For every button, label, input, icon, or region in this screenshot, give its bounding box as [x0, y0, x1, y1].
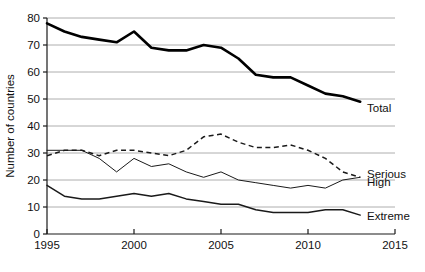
y-tick-label: 60: [27, 66, 40, 78]
series-label-extreme: Extreme: [367, 210, 410, 222]
y-tick-label: 10: [27, 201, 40, 213]
line-chart: 01020304050607080 19952000200520102015 T…: [0, 0, 425, 272]
x-tick-label: 2015: [382, 239, 408, 251]
y-tick-label: 50: [27, 93, 40, 105]
y-tick-label: 30: [27, 147, 40, 159]
x-tick-label: 2000: [121, 239, 147, 251]
series-label-high: High: [367, 176, 391, 188]
y-tick-label: 40: [27, 120, 40, 132]
y-axis-title: Number of countries: [4, 74, 16, 178]
x-tick-label: 2010: [295, 239, 321, 251]
y-tick-label: 20: [27, 174, 40, 186]
y-tick-label: 80: [27, 12, 40, 24]
chart-container: 01020304050607080 19952000200520102015 T…: [0, 0, 425, 272]
x-tick-label: 2005: [208, 239, 234, 251]
x-tick-label: 1995: [34, 239, 60, 251]
y-tick-label: 70: [27, 39, 40, 51]
series-label-total: Total: [367, 102, 391, 114]
